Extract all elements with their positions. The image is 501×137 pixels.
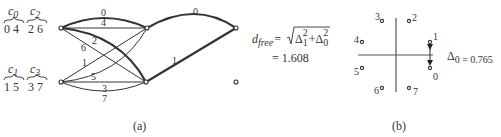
edge-label-1: 1 <box>82 57 87 68</box>
trellis-and-constellation-figure: c0 0 4 c2 2 6 c1 1 5 c3 3 7 <box>0 0 501 137</box>
caption-b: (b) <box>392 119 406 133</box>
constellation-point-0 <box>428 66 431 69</box>
delta-label: Δ0 = 0.765 <box>447 49 493 65</box>
point-label-0: 0 <box>433 71 438 82</box>
trellis-node <box>59 26 63 30</box>
constellation-point-4 <box>360 40 363 43</box>
point-label-4: 4 <box>354 34 359 45</box>
trellis-node <box>59 80 63 84</box>
constellation-point-3 <box>380 19 383 22</box>
edge-label-7: 7 <box>102 93 107 104</box>
edge-label-2: 2 <box>92 35 97 46</box>
svg-text:Δ12+Δ02: Δ12+Δ02 <box>295 27 328 48</box>
constellation-point-5 <box>360 66 363 69</box>
edge-label-stage2-0: 0 <box>193 6 198 17</box>
edge-label-5: 5 <box>91 71 96 82</box>
svg-text:0 4: 0 4 <box>4 22 19 36</box>
svg-text:dfree=: dfree= <box>252 32 281 48</box>
svg-text:3 7: 3 7 <box>28 80 43 94</box>
svg-text:2 6: 2 6 <box>28 22 43 36</box>
edge-stage2-1 <box>146 28 236 82</box>
point-label-3: 3 <box>375 11 380 22</box>
point-label-1: 1 <box>433 31 438 42</box>
figure-a: c0 0 4 c2 2 6 c1 1 5 c3 3 7 <box>4 4 330 133</box>
svg-text:1 5: 1 5 <box>4 80 19 94</box>
edge-label-stage2-1: 1 <box>172 55 177 66</box>
edge-label-4: 4 <box>101 17 106 28</box>
point-label-7: 7 <box>413 86 418 97</box>
edge-label-6: 6 <box>81 42 86 53</box>
constellation-point-2 <box>407 19 410 22</box>
trellis-node <box>234 80 238 84</box>
point-label-5: 5 <box>354 66 359 77</box>
edge-stage2-0 <box>147 14 236 28</box>
subset-label-c2: c2 2 6 <box>27 4 47 36</box>
trellis-node <box>234 26 238 30</box>
svg-text:c0: c0 <box>8 4 18 20</box>
figure-b: 0 1 2 3 4 5 6 7 Δ0 = 0.765 (b) <box>354 11 493 133</box>
constellation-point-6 <box>380 86 383 89</box>
subset-label-c1: c1 1 5 <box>4 62 24 94</box>
caption-a: (a) <box>133 119 146 133</box>
constellation-point-1 <box>428 40 431 43</box>
constellation-point-7 <box>407 86 410 89</box>
point-label-6: 6 <box>374 85 379 96</box>
svg-text:c3: c3 <box>30 62 40 78</box>
dfree-value: = 1.608 <box>272 51 309 65</box>
dfree-formula: dfree= Δ12+Δ02 = 1.608 <box>252 27 330 65</box>
trellis-node <box>145 26 149 30</box>
svg-text:c2: c2 <box>30 4 40 20</box>
subset-label-c0: c0 0 4 <box>4 4 24 36</box>
trellis-node <box>144 80 148 84</box>
point-label-2: 2 <box>412 12 417 23</box>
subset-label-c3: c3 3 7 <box>27 62 47 94</box>
